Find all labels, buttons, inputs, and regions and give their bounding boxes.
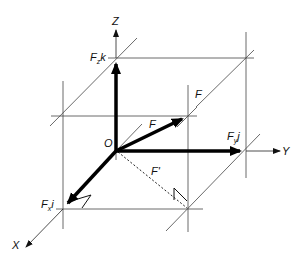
axes — [26, 30, 280, 247]
svg-text:Fxi: Fxi — [41, 198, 54, 212]
f-prime-projection — [118, 152, 187, 208]
y-axis-label: Y — [282, 145, 290, 157]
f-tip-label: F — [195, 88, 203, 100]
right-angle-marker-f-prime — [174, 188, 187, 201]
svg-text:Fzk: Fzk — [90, 51, 106, 65]
f-prime-label: F' — [151, 165, 161, 177]
fz-label: Fzk — [90, 51, 106, 65]
svg-text:Fyj: Fyj — [227, 130, 240, 145]
x-axis-label: X — [11, 239, 20, 251]
force-diagram: Z Y X O F F F' Fzk Fyj Fxi — [0, 0, 305, 262]
origin-label: O — [104, 137, 113, 149]
component-vectors — [68, 64, 240, 203]
f-label: F — [149, 118, 157, 130]
x-axis — [26, 209, 63, 247]
z-axis-label: Z — [111, 15, 120, 27]
fx-label: Fxi — [41, 198, 54, 212]
fy-label: Fyj — [227, 130, 240, 145]
fx-vector — [68, 151, 116, 203]
